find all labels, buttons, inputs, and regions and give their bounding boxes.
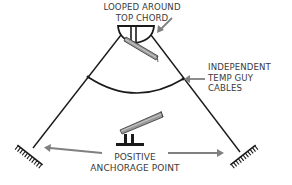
left-guy-cable <box>33 35 121 148</box>
right-anchor-icon <box>230 145 258 169</box>
right-guy-cable <box>151 35 240 152</box>
guy-cables-label: INDEPENDENT TEMP GUY CABLES <box>208 62 271 94</box>
beam-support-icon <box>116 134 144 146</box>
anchorage-point-label: POSITIVE ANCHORAGE POINT <box>75 152 195 173</box>
top-chord-loop <box>118 26 154 43</box>
cable-arc <box>88 77 183 93</box>
left-anchor-icon <box>14 145 42 169</box>
lower-truss-beam <box>120 111 163 134</box>
top-chord-label: LOOPED AROUND TOP CHORD <box>92 2 192 23</box>
